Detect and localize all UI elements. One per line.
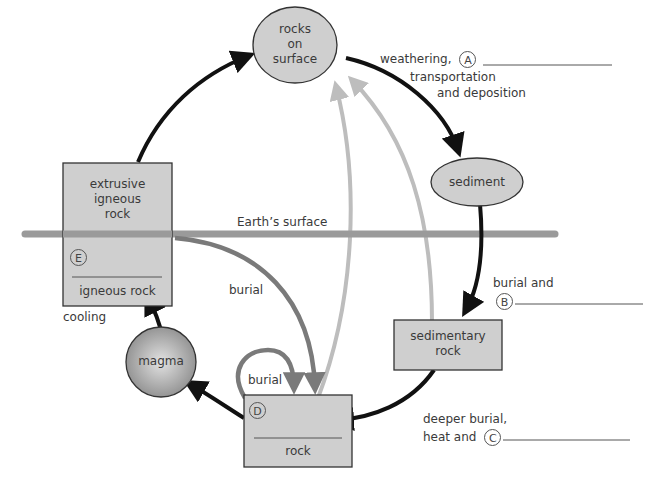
heat-and-label: heat and C <box>423 429 501 446</box>
sedimentary-rock-label: sedimentary rock <box>394 329 502 359</box>
cooling-label: cooling <box>63 310 106 325</box>
and-deposition-label: and deposition <box>437 86 526 101</box>
marker-b: B <box>496 293 513 310</box>
deeper-burial-label: deeper burial, <box>423 412 507 427</box>
rock-label: rock <box>244 444 352 459</box>
arrow-igneous-to-surface <box>138 56 248 162</box>
marker-c: C <box>484 429 501 446</box>
uplift-arrow-from-sedimentary <box>352 80 432 322</box>
marker-e: E <box>70 247 87 266</box>
burial-label-2: burial <box>248 373 282 388</box>
marker-d: D <box>249 400 266 419</box>
rocks-on-surface-label: rocks on surface <box>253 22 337 67</box>
transportation-label: transportation <box>410 70 496 85</box>
igneous-rock-label: igneous rock <box>63 284 172 299</box>
magma-label: magma <box>126 354 196 369</box>
marker-b-wrap: B <box>496 293 513 310</box>
extrusive-igneous-rock-label: extrusive igneous rock <box>63 177 172 222</box>
marker-a: A <box>459 51 476 68</box>
earths-surface-label: Earth’s surface <box>237 215 327 230</box>
uplift-arrow-from-rock <box>318 86 351 398</box>
arrow-rock-to-magma <box>190 384 244 418</box>
burial-and-label: burial and <box>493 276 554 291</box>
arrow-sediment-to-sedimentary <box>466 204 481 310</box>
burial-label-1: burial <box>229 283 263 298</box>
rock-cycle-diagram <box>0 0 659 483</box>
sediment-label: sediment <box>431 175 523 190</box>
weathering-label: weathering, A <box>380 51 476 68</box>
